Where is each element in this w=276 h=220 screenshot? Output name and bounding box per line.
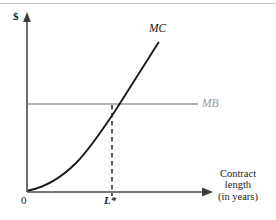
x-axis-arrowhead xyxy=(202,188,213,197)
x-axis-label-line2: length xyxy=(218,179,258,190)
mb-line-label: MB xyxy=(202,97,219,109)
y-axis-arrowhead xyxy=(23,12,31,22)
figure-container: $ MC MB 0 L* Contract length (in years) xyxy=(0,0,276,220)
lstar-tick-label: L* xyxy=(104,195,116,207)
mc-curve-label: MC xyxy=(149,22,166,34)
y-axis-label: $ xyxy=(13,11,19,23)
x-axis-label: Contract length (in years) xyxy=(218,168,258,202)
x-axis-label-line1: Contract xyxy=(218,168,258,179)
x-axis-label-line3: (in years) xyxy=(218,191,258,202)
mc-curve xyxy=(29,43,159,191)
origin-label: 0 xyxy=(21,195,27,207)
